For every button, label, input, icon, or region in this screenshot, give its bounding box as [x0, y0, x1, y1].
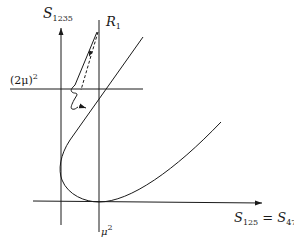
x-axis-equals: = [258, 210, 277, 225]
trajectory-solid [71, 32, 97, 109]
diagram-canvas [0, 0, 294, 245]
r1-subscript: 1 [116, 22, 121, 31]
vline-label-base: μ [101, 226, 108, 237]
vline-label-sup: 2 [108, 223, 113, 232]
y-axis-label: S1235 [43, 5, 73, 21]
trajectory-dashed [81, 32, 98, 90]
hline-label-sup: 2 [33, 72, 38, 81]
x-axis-symbol2: S [277, 210, 286, 225]
r1-symbol: R [106, 14, 116, 29]
hline-label-base: (2μ) [10, 74, 33, 87]
y-axis-symbol: S [43, 5, 53, 21]
phase-diagram: S1235 R1 (2μ)2 μ2 S125 = S478 [0, 0, 294, 245]
vline-label: μ2 [101, 226, 113, 237]
x-axis-label: S125 = S478 [234, 210, 294, 225]
x-axis-subscript2: 478 [286, 218, 294, 227]
x-axis [33, 201, 262, 203]
x-axis-symbol: S [234, 210, 243, 225]
hline-label: (2μ)2 [10, 74, 38, 87]
y-axis-subscript: 1235 [53, 14, 73, 23]
x-axis-subscript: 125 [243, 218, 258, 227]
r1-label: R1 [106, 14, 121, 29]
trajectory-end-arrow [80, 106, 86, 108]
